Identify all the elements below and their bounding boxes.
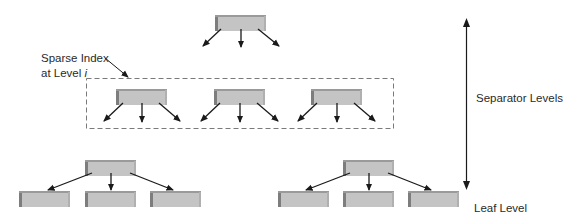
sparse-index-label-line1: Sparse Index: [41, 51, 109, 65]
level-i-arrows: [104, 103, 375, 122]
leaf-node-5: [343, 191, 394, 207]
leaf-level-label: Leaf Level: [474, 201, 527, 215]
level-variable: i: [84, 67, 87, 79]
index-tree-diagram: [0, 0, 574, 219]
sparse-index-label-line2: at Level i: [41, 66, 87, 80]
leaf-node-1: [19, 191, 70, 207]
leaf-node-2: [85, 191, 136, 207]
leaf-node-6: [408, 191, 459, 207]
levels-span-arrow: [463, 18, 470, 190]
leaf-node-4: [278, 191, 329, 207]
sparse-index-label-prefix: at Level: [41, 67, 84, 79]
separator-levels-label: Separator Levels: [476, 91, 563, 105]
root-arrows: [203, 29, 279, 47]
leaf-node-3: [150, 191, 201, 207]
